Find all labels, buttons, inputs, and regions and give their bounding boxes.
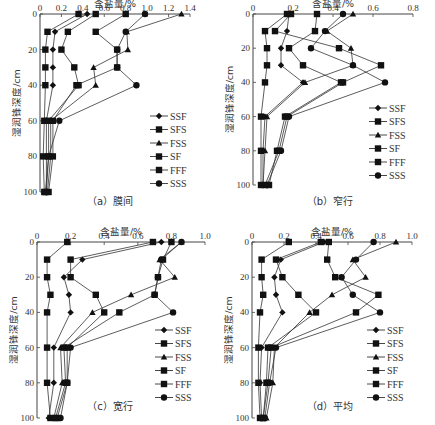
diamond-marker-icon: [278, 45, 284, 51]
circle-marker-icon: [114, 64, 120, 70]
square-marker-icon: [47, 292, 53, 298]
x-tick-label: 1.2: [163, 3, 174, 13]
y-axis-title: 湿润锋深度/cm: [223, 296, 234, 364]
y-tick-label: 0: [246, 9, 251, 19]
square-marker-icon: [375, 145, 381, 151]
circle-marker-icon: [43, 189, 49, 195]
x-axis-title: 含盐量/%: [94, 0, 136, 9]
x-tick-label: 1.4: [184, 3, 196, 13]
legend-label-fss: FSS: [170, 138, 187, 149]
y-tick-label: 20: [28, 45, 38, 55]
legend-label-sss: SSS: [175, 392, 192, 403]
y-tick-label: 20: [241, 43, 251, 53]
x-tick-label: 0.6: [367, 3, 379, 13]
square-marker-icon: [50, 118, 56, 124]
circle-marker-icon: [64, 380, 70, 386]
circle-marker-icon: [158, 256, 164, 262]
series-ssf: [46, 239, 165, 421]
triangle-marker-icon: [362, 274, 368, 280]
square-marker-icon: [156, 126, 162, 132]
panel-caption: （a）膜间: [87, 195, 133, 207]
y-tick-label: 40: [241, 77, 251, 87]
diamond-marker-icon: [50, 82, 56, 88]
square-marker-icon: [324, 256, 330, 262]
chart-panel-3: 00.20.40.60.81.0020406080100含盐量/%湿润锋深度/c…: [223, 226, 418, 423]
x-axis-title: 含盐量/%: [312, 0, 354, 9]
square-marker-icon: [340, 79, 346, 85]
legend-label-ssf: SSF: [170, 111, 187, 122]
square-marker-icon: [123, 11, 129, 17]
y-tick-label: 100: [237, 180, 251, 190]
circle-marker-icon: [262, 415, 268, 421]
panel-caption: （c）宽行: [87, 400, 133, 412]
y-tick-label: 100: [24, 187, 38, 197]
square-marker-icon: [156, 153, 162, 159]
square-marker-icon: [262, 28, 268, 34]
square-marker-icon: [264, 62, 270, 68]
square-marker-icon: [378, 62, 384, 68]
triangle-marker-icon: [329, 292, 335, 298]
square-marker-icon: [42, 46, 48, 52]
square-marker-icon: [336, 45, 342, 51]
circle-marker-icon: [273, 344, 279, 350]
chart-canvas: 00.20.40.60.81.01.21.4020406080100含盐量/%湿…: [0, 0, 435, 425]
legend-label-sss: SSS: [387, 392, 404, 403]
square-marker-icon: [273, 256, 279, 262]
y-tick-label: 20: [240, 272, 250, 282]
square-marker-icon: [73, 82, 79, 88]
circle-marker-icon: [353, 256, 359, 262]
circle-marker-icon: [133, 82, 139, 88]
legend: SSFSFSFSSSFFFFSSS: [369, 103, 406, 182]
square-marker-icon: [258, 274, 264, 280]
legend-label-fff: FFF: [387, 379, 404, 390]
legend-label-fff: FFF: [170, 165, 187, 176]
legend-label-ssf: SSF: [387, 325, 404, 336]
y-axis-title: 湿润锋深度/cm: [8, 296, 19, 364]
square-marker-icon: [44, 344, 50, 350]
square-marker-icon: [58, 46, 64, 52]
y-tick-label: 40: [28, 80, 38, 90]
square-marker-icon: [373, 381, 379, 387]
y-tick-label: 40: [25, 307, 35, 317]
triangle-marker-icon: [93, 82, 99, 88]
square-marker-icon: [67, 256, 73, 262]
square-marker-icon: [64, 239, 70, 245]
x-tick-label: 0.8: [374, 231, 386, 241]
square-marker-icon: [288, 11, 294, 17]
square-marker-icon: [286, 239, 292, 245]
circle-marker-icon: [123, 29, 129, 35]
legend-label-fss: FSS: [387, 352, 404, 363]
square-marker-icon: [150, 239, 156, 245]
x-tick-label: 0.2: [56, 3, 67, 13]
y-tick-label: 80: [240, 378, 250, 388]
y-tick-label: 60: [240, 343, 250, 353]
x-tick-label: 1.0: [406, 231, 418, 241]
circle-marker-icon: [350, 62, 356, 68]
triangle-marker-icon: [128, 292, 134, 298]
square-marker-icon: [279, 274, 285, 280]
circle-marker-icon: [57, 415, 63, 421]
series-sf: [42, 11, 99, 195]
x-axis-title: 含盐量/%: [100, 226, 142, 237]
square-marker-icon: [326, 239, 332, 245]
diamond-marker-icon: [51, 380, 57, 386]
legend: SSFSFSFSSSFFFFSSS: [155, 325, 192, 404]
diamond-marker-icon: [375, 105, 381, 111]
y-tick-label: 20: [25, 272, 35, 282]
square-marker-icon: [262, 79, 268, 85]
square-marker-icon: [264, 45, 270, 51]
square-marker-icon: [295, 292, 301, 298]
square-marker-icon: [161, 367, 167, 373]
square-marker-icon: [42, 82, 48, 88]
square-marker-icon: [353, 309, 359, 315]
square-marker-icon: [255, 380, 261, 386]
square-marker-icon: [318, 239, 324, 245]
square-marker-icon: [286, 45, 292, 51]
circle-marker-icon: [322, 28, 328, 34]
legend-label-fss: FSS: [175, 352, 192, 363]
square-marker-icon: [258, 113, 264, 119]
circle-marker-icon: [286, 113, 292, 119]
diamond-marker-icon: [279, 309, 285, 315]
circle-marker-icon: [308, 45, 314, 51]
square-marker-icon: [93, 29, 99, 35]
